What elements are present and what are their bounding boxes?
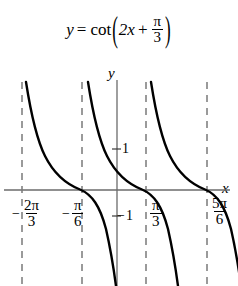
cotangent-branch-3 [151,82,238,286]
cotangent-branch-1 [26,82,116,286]
x-tick-label-neg-2pi-over-3-sign: − [12,207,21,221]
figure-container: y = cot ( 2x + π 3 ) y x [0,0,238,286]
x-tick-label-5pi-over-6-denominator: 6 [214,211,226,227]
equation-fraction-denominator: 3 [152,29,164,45]
equation-plus-sign: + [135,21,151,38]
equation-expression: y = cot ( 2x + π 3 ) [66,14,171,46]
y-tick-label-negative-one-value: 1 [126,209,133,223]
x-tick-label-pi-over-3-fraction: π 3 [150,198,162,230]
equation-argument-term: 2x [119,21,135,38]
equation-lhs: y [66,21,74,38]
equation-close-paren: ) [164,12,172,47]
x-tick-label-neg-2pi-over-3-fraction: 2π 3 [22,198,41,230]
x-tick-label-5pi-over-6-fraction: 5π 6 [210,196,229,228]
x-tick-label-neg-2pi-over-3-numerator: 2π [22,198,41,213]
equation-argument-fraction: π 3 [151,14,163,46]
x-tick-label-neg-2pi-over-3-denominator: 3 [26,213,38,229]
equation-label: y = cot ( 2x + π 3 ) [0,14,238,46]
x-tick-label-pi-over-3: π 3 [148,198,163,230]
x-tick-label-neg-pi-over-6-denominator: 6 [72,213,84,229]
equation-fraction-numerator: π [151,14,163,29]
y-tick-label-negative-one: − 1 [117,209,133,223]
x-tick-label-pi-over-3-denominator: 3 [150,213,162,229]
equation-function-name: cot [89,21,111,38]
equation-equals-sign: = [74,21,90,38]
equation-open-paren: ( [111,12,119,47]
x-tick-label-5pi-over-6-numerator: 5π [210,196,229,211]
x-tick-label-neg-pi-over-6-numerator: π [72,198,84,213]
x-tick-label-pi-over-3-numerator: π [150,198,162,213]
cotangent-graph [0,66,238,286]
x-tick-label-neg-pi-over-6-fraction: π 6 [72,198,84,230]
y-tick-label-negative-one-sign: − [117,209,126,223]
cotangent-branch-2 [88,82,178,286]
cotangent-curve-group [26,82,238,286]
x-tick-label-neg-pi-over-6: − π 6 [62,198,84,230]
y-tick-label-positive-one-value: 1 [122,142,129,156]
x-tick-label-5pi-over-6: 5π 6 [208,196,230,228]
asymptote-group [22,82,207,286]
y-tick-label-positive-one: 1 [122,142,129,156]
x-tick-label-neg-2pi-over-3: − 2π 3 [12,198,42,230]
x-tick-label-neg-pi-over-6-sign: − [62,207,71,221]
